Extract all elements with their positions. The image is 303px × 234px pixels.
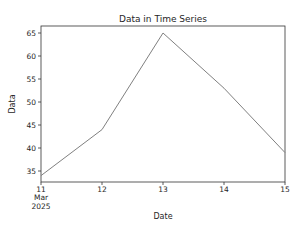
y-tick-label: 50: [26, 98, 36, 107]
chart-title: Data in Time Series: [119, 14, 207, 24]
x-tick-month: Mar: [34, 193, 49, 202]
y-tick-label: 55: [26, 75, 36, 84]
y-tick-label: 40: [26, 144, 36, 153]
x-tick-year: 2025: [31, 202, 50, 211]
x-axis: 1112131415: [36, 182, 290, 194]
y-tick-label: 35: [26, 167, 36, 176]
y-tick-label: 45: [26, 121, 36, 130]
data-line: [41, 33, 285, 176]
plot-frame: [41, 26, 285, 182]
y-axis-label: Data: [8, 94, 17, 113]
y-tick-label: 65: [26, 29, 36, 38]
x-tick-label: 15: [280, 185, 290, 194]
x-tick-label: 14: [219, 185, 229, 194]
x-tick-label: 12: [97, 185, 107, 194]
y-tick-label: 60: [26, 52, 36, 61]
x-tick-label: 13: [158, 185, 168, 194]
x-axis-label: Date: [153, 212, 172, 221]
chart: Data in Time Series 35404550556065 11121…: [0, 0, 303, 234]
y-axis: 35404550556065: [26, 29, 41, 176]
